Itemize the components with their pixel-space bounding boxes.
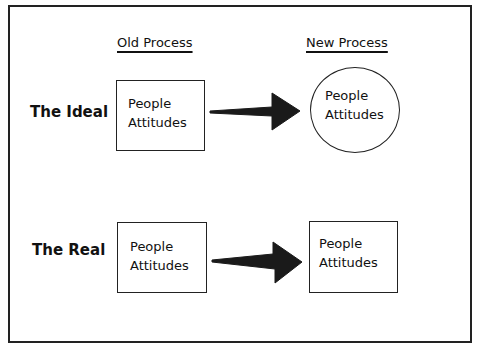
ideal-right-arrow-icon [210,93,300,130]
arrows-layer [0,0,479,348]
real-right-arrow-icon [212,242,302,283]
